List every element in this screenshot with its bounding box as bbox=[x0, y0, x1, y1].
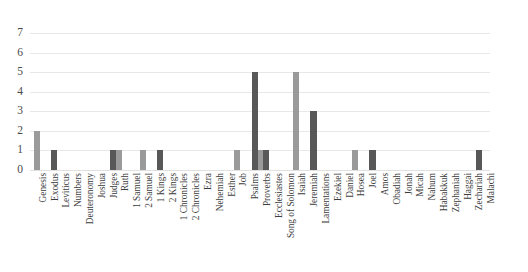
x-label-slot: Song of Solomon bbox=[278, 171, 290, 272]
bars-layer bbox=[30, 33, 490, 170]
x-label-slot: Zephaniah bbox=[443, 171, 455, 272]
bar bbox=[310, 111, 316, 170]
bar bbox=[352, 150, 358, 170]
x-label-slot: Leviticus bbox=[54, 171, 66, 272]
x-label-slot: Job bbox=[231, 171, 243, 272]
x-label-slot: 2 Kings bbox=[160, 171, 172, 272]
x-label-slot: Ecclesiastes bbox=[266, 171, 278, 272]
x-label-slot: Joel bbox=[360, 171, 372, 272]
x-label-slot: 1 Chronicles bbox=[172, 171, 184, 272]
x-label-slot: Micah bbox=[407, 171, 419, 272]
y-tick-label: 3 bbox=[17, 106, 23, 118]
x-label-slot: Ezekiel bbox=[325, 171, 337, 272]
bar bbox=[369, 150, 375, 170]
bar bbox=[116, 150, 122, 170]
bar-chart: 01234567 GenesisExodusLeviticusNumbersDe… bbox=[0, 0, 528, 272]
x-label-slot: Ezra bbox=[195, 171, 207, 272]
x-label-slot: Exodus bbox=[42, 171, 54, 272]
x-label-slot: Nahum bbox=[419, 171, 431, 272]
x-label-slot: Psalms bbox=[242, 171, 254, 272]
bar bbox=[140, 150, 146, 170]
y-tick-label: 2 bbox=[17, 125, 23, 137]
bar bbox=[263, 150, 269, 170]
x-label-slot: Genesis bbox=[30, 171, 42, 272]
x-axis-tick-label: Malachi bbox=[484, 173, 493, 203]
y-tick-label: 0 bbox=[17, 164, 23, 176]
x-label-slot: Lamentations bbox=[313, 171, 325, 272]
bar bbox=[234, 150, 240, 170]
x-label-slot: Nehemiah bbox=[207, 171, 219, 272]
x-label-slot: 2 Samuel bbox=[136, 171, 148, 272]
x-label-slot: Isaiah bbox=[289, 171, 301, 272]
y-tick-label: 6 bbox=[17, 47, 23, 59]
x-label-slot: Ruth bbox=[113, 171, 125, 272]
bar bbox=[476, 150, 482, 170]
x-label-slot: Judges bbox=[101, 171, 113, 272]
bar bbox=[293, 72, 299, 170]
x-label-slot: Jeremiah bbox=[301, 171, 313, 272]
x-axis-labels: GenesisExodusLeviticusNumbersDeuteronomy… bbox=[30, 171, 490, 272]
x-label-slot: 1 Samuel bbox=[124, 171, 136, 272]
bar bbox=[51, 150, 57, 170]
x-label-slot: Habakkuk bbox=[431, 171, 443, 272]
x-label-slot: Joshua bbox=[89, 171, 101, 272]
y-tick-label: 5 bbox=[17, 66, 23, 78]
y-tick-label: 4 bbox=[17, 86, 23, 98]
x-label-slot: Malachi bbox=[478, 171, 490, 272]
x-label-slot: Amos bbox=[372, 171, 384, 272]
y-axis: 01234567 bbox=[0, 33, 30, 170]
plot-area bbox=[30, 33, 490, 170]
bar bbox=[157, 150, 163, 170]
x-label-slot: Deuteronomy bbox=[77, 171, 89, 272]
x-label-slot: Daniel bbox=[337, 171, 349, 272]
x-label-slot: Haggai bbox=[455, 171, 467, 272]
x-label-slot: Esther bbox=[219, 171, 231, 272]
x-label-slot: Proverbs bbox=[254, 171, 266, 272]
y-tick-label: 1 bbox=[17, 145, 23, 157]
x-label-slot: Zechariah bbox=[466, 171, 478, 272]
x-label-slot: Obadiah bbox=[384, 171, 396, 272]
x-label-slot: Numbers bbox=[65, 171, 77, 272]
x-label-slot: 1 Kings bbox=[148, 171, 160, 272]
x-label-slot: Jonah bbox=[396, 171, 408, 272]
x-label-slot: 2 Chronicles bbox=[183, 171, 195, 272]
x-label-slot: Hosea bbox=[348, 171, 360, 272]
y-tick-label: 7 bbox=[17, 27, 23, 39]
bar bbox=[34, 131, 40, 170]
